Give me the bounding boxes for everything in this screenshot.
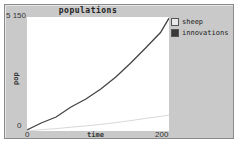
legend-swatch-innovations	[171, 29, 179, 37]
series-line-innovations	[27, 18, 169, 130]
x-axis-label: time	[87, 131, 104, 139]
y-axis-max-label: 5 150	[6, 11, 26, 20]
plot-area	[27, 17, 169, 131]
series-line-sheep	[27, 115, 169, 131]
legend-label: innovations	[182, 29, 228, 37]
line-chart	[27, 17, 169, 131]
legend-item-innovations: innovations	[171, 28, 228, 38]
x-axis-min-label: 0	[25, 130, 29, 139]
legend-swatch-sheep	[171, 18, 179, 26]
legend-item-sheep: sheep	[171, 17, 228, 27]
legend: sheep innovations	[171, 17, 228, 39]
y-axis-label: pop	[12, 72, 20, 85]
plot-widget: populations 5 150 0 pop 0 time 200 sheep…	[4, 4, 234, 139]
x-axis-max-label: 200	[155, 130, 168, 139]
y-axis-min-label: 0	[17, 121, 21, 130]
plot-title: populations	[5, 6, 171, 15]
legend-label: sheep	[182, 18, 203, 26]
